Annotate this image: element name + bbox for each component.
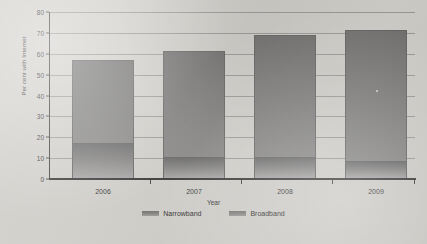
stacked-bar-chart: Per cent with Internet 0 10 20 30 40 50 … [5, 5, 422, 227]
legend-item-narrowband[interactable]: Narrowband [142, 210, 201, 217]
y-tick-label: 80 [22, 9, 44, 16]
bar-2006[interactable] [72, 60, 134, 179]
bar-segment-narrowband-2008[interactable] [254, 158, 316, 179]
x-tick-mark [150, 180, 151, 184]
x-tick-label-2009: 2009 [345, 188, 407, 195]
plot-interior [49, 12, 415, 179]
bar-segment-narrowband-2006[interactable] [72, 144, 134, 180]
plot-area: Per cent with Internet 0 10 20 30 40 50 … [5, 5, 422, 185]
bar-2008[interactable] [254, 35, 316, 179]
x-tick-mark [241, 180, 242, 184]
legend-item-broadband[interactable]: Broadband [229, 210, 284, 217]
bar-segment-broadband-2007[interactable] [163, 51, 225, 159]
bar-segment-broadband-2008[interactable] [254, 35, 316, 158]
y-tick-label: 60 [22, 50, 44, 57]
x-tick-mark [414, 180, 415, 184]
chart-legend: Narrowband Broadband [5, 210, 422, 217]
x-tick-label-2008: 2008 [254, 188, 316, 195]
x-tick-label-2006: 2006 [72, 188, 134, 195]
bar-segment-broadband-2009[interactable] [345, 30, 407, 163]
gridline [49, 12, 415, 13]
x-tick-mark [332, 180, 333, 184]
bar-segment-narrowband-2007[interactable] [163, 158, 225, 179]
y-tick-label: 10 [22, 155, 44, 162]
broadband-swatch-icon [229, 211, 246, 216]
legend-label-broadband: Broadband [250, 210, 284, 217]
bar-2007[interactable] [163, 51, 225, 179]
x-axis-line [49, 178, 416, 180]
y-tick-label: 50 [22, 71, 44, 78]
bar-2009[interactable] [345, 30, 407, 179]
legend-label-narrowband: Narrowband [163, 210, 201, 217]
x-tick-label-2007: 2007 [163, 188, 225, 195]
scan-speck [376, 90, 378, 92]
y-tick-label: 20 [22, 134, 44, 141]
narrowband-swatch-icon [142, 211, 159, 216]
y-tick-label: 30 [22, 113, 44, 120]
chart-screenshot: Per cent with Internet 0 10 20 30 40 50 … [0, 0, 427, 244]
bar-segment-broadband-2006[interactable] [72, 60, 134, 144]
y-axis-line [49, 12, 50, 179]
bar-segment-narrowband-2009[interactable] [345, 162, 407, 179]
y-axis-tick-labels: 0 10 20 30 40 50 60 70 80 [21, 5, 44, 185]
y-tick-label: 40 [22, 92, 44, 99]
y-tick-label: 0 [22, 176, 44, 183]
y-tick-label: 70 [22, 29, 44, 36]
x-axis-title: Year [5, 199, 422, 206]
